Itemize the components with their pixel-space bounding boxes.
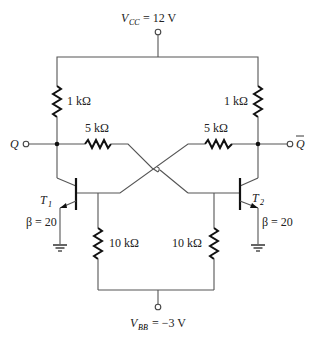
ground-icon — [251, 245, 265, 251]
rb2-label: 10 kΩ — [172, 236, 202, 250]
t1-subscript: 1 — [48, 200, 52, 209]
t1-collector — [57, 178, 76, 186]
resistor-zigzag — [85, 140, 111, 148]
rb1-label: 10 kΩ — [109, 236, 139, 250]
r-cross-left-label: 5 kΩ — [85, 121, 109, 135]
q-label: Q — [10, 137, 19, 151]
resistor-cross-left: 5 kΩ — [85, 121, 111, 148]
cross-wire-b — [76, 144, 205, 193]
t1-emitter-arrow-icon — [60, 203, 67, 208]
vcc-rail — [57, 57, 258, 86]
transistor-t1: T 1 β = 20 — [26, 178, 76, 251]
r-cross-right-label: 5 kΩ — [204, 121, 228, 135]
resistor-zigzag — [205, 140, 232, 148]
t2-symbol: T — [252, 191, 260, 205]
t2-beta: β = 20 — [262, 215, 293, 229]
resistor-cross-right: 5 kΩ — [204, 121, 232, 148]
vbb-value: = −3 V — [152, 316, 186, 330]
resistor-zigzag — [94, 228, 102, 259]
q-junction — [55, 142, 60, 147]
vbb-subscript: BB — [138, 323, 148, 332]
q-output: Q — [10, 137, 85, 151]
ground-icon — [53, 245, 67, 251]
q-bar-junction — [256, 142, 261, 147]
vcc-terminal — [155, 29, 161, 35]
cross-wire-a1 — [111, 144, 158, 172]
q-bar-label: Q — [296, 137, 305, 151]
t2-collector — [240, 178, 258, 186]
vbb-supply: V BB = −3 V — [130, 290, 186, 332]
q-bar-terminal — [287, 141, 293, 147]
vcc-supply: V CC = 12 V — [121, 11, 177, 57]
resistor-zigzag — [254, 86, 262, 117]
resistor-zigzag — [53, 86, 61, 117]
t1-symbol: T — [40, 193, 48, 207]
vcc-value: = 12 V — [143, 11, 177, 25]
t2-subscript: 2 — [260, 198, 264, 207]
q-terminal — [23, 141, 29, 147]
vbb-terminal — [155, 304, 161, 310]
rc2-label: 1 kΩ — [224, 94, 248, 108]
resistor-rc1: 1 kΩ — [53, 86, 91, 117]
circuit-diagram: V CC = 12 V 1 kΩ 1 kΩ Q Q 5 kΩ — [0, 0, 315, 337]
q-bar-output: Q — [232, 136, 305, 151]
vcc-subscript: CC — [129, 18, 140, 27]
resistor-rb2: 10 kΩ — [172, 193, 218, 290]
resistor-zigzag — [210, 228, 218, 259]
cross-wire-hop — [157, 167, 188, 193]
resistor-rc2: 1 kΩ — [224, 86, 262, 117]
t1-beta: β = 20 — [26, 215, 57, 229]
resistor-rb1: 10 kΩ — [94, 193, 139, 290]
rc1-label: 1 kΩ — [67, 94, 91, 108]
transistor-t2: T 2 β = 20 — [240, 178, 293, 251]
